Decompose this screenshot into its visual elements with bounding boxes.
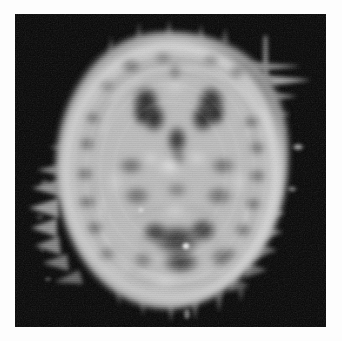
page-canvas [0, 0, 342, 341]
brain-scan-image [15, 14, 326, 327]
scan-image-frame [15, 14, 326, 327]
brain-parenchyma [70, 51, 270, 296]
